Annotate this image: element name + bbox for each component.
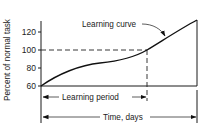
time-axis-label: Time, days xyxy=(103,113,143,122)
y-tick-label-60: 60 xyxy=(27,81,37,91)
learning-curve-label: Learning curve xyxy=(82,20,137,29)
learning-curve-chart: Percent of normal task 120 100 80 60 Lea… xyxy=(0,0,214,127)
learning-curve-leader xyxy=(142,24,165,36)
learning-period-label: Learning period xyxy=(62,93,119,102)
y-tick-label-100: 100 xyxy=(22,45,36,55)
y-tick-label-80: 80 xyxy=(27,63,37,73)
y-tick-label-120: 120 xyxy=(22,27,36,37)
learning-curve-line xyxy=(41,20,197,86)
y-axis-label: Percent of normal task xyxy=(3,18,12,101)
